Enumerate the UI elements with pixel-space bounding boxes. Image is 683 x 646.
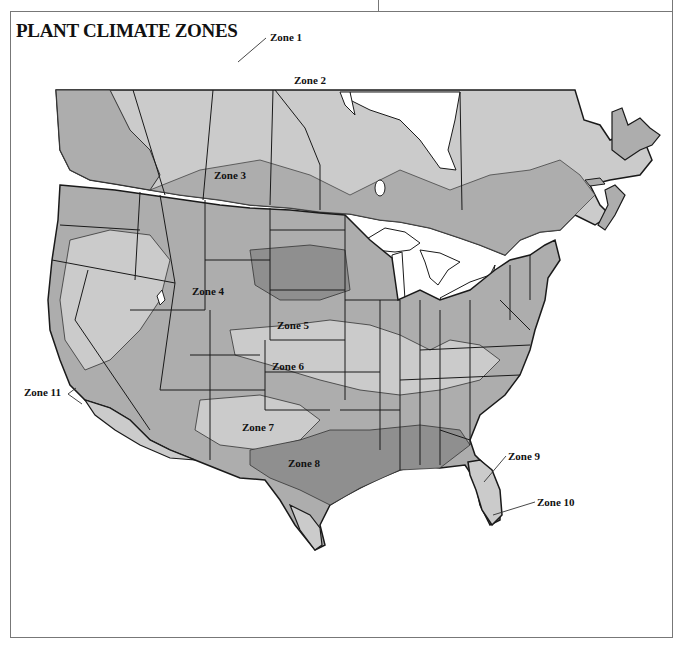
zone-7-label: Zone 7 <box>242 421 275 433</box>
climate-zone-map: Zone 1 Zone 2 Zone 3 Zone 4 Zone 5 Zone … <box>0 0 683 646</box>
lake-small <box>375 180 385 196</box>
zone-2-label: Zone 2 <box>294 74 327 86</box>
zone-3-label: Zone 3 <box>214 169 247 181</box>
zone-4-label: Zone 4 <box>192 285 225 297</box>
zone-10-label: Zone 10 <box>537 496 575 508</box>
zone-11-label: Zone 11 <box>24 386 61 398</box>
zone-5-label: Zone 5 <box>277 319 310 331</box>
zone-8-label: Zone 8 <box>288 457 321 469</box>
florida <box>468 460 502 525</box>
zone-6-label: Zone 6 <box>272 360 305 372</box>
zone-1-label: Zone 1 <box>270 31 302 43</box>
zone-9-label: Zone 9 <box>508 450 541 462</box>
newfoundland <box>612 108 660 160</box>
